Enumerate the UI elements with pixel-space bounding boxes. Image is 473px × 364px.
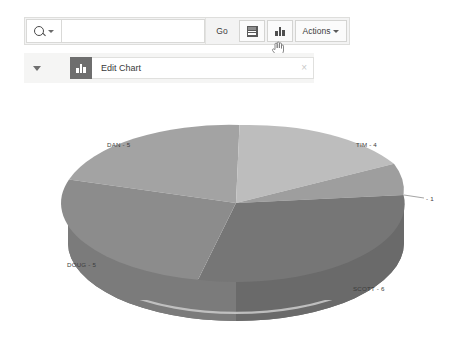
pie-top-slices [61, 125, 405, 282]
chevron-down-icon [333, 30, 339, 33]
pie-label-unnamed: - 1 [426, 195, 434, 202]
search-input[interactable] [62, 19, 205, 43]
pie-chart-container: DAN - 5 TIM - 4 - 1 SCOTT - 6 DOUG - 5 [0, 95, 473, 364]
triangle-down-icon [33, 66, 41, 71]
edit-chart-icon-button[interactable] [70, 57, 92, 79]
pie-chart: DAN - 5 TIM - 4 - 1 SCOTT - 6 DOUG - 5 [0, 95, 473, 364]
pie-label-doug: DOUG - 5 [67, 261, 96, 268]
region-collapse-toggle[interactable] [24, 66, 50, 71]
pie-leader-line [404, 195, 424, 198]
bar-chart-icon [75, 63, 87, 73]
report-toolbar: Go Actions [24, 17, 350, 45]
actions-button-label: Actions [303, 26, 331, 36]
table-view-icon [247, 26, 258, 37]
actions-menu-button[interactable]: Actions [295, 20, 347, 42]
search-type-selector[interactable] [26, 19, 62, 43]
bar-chart-view-icon [274, 26, 286, 36]
pie-label-tim: TIM - 4 [356, 141, 377, 148]
table-view-button[interactable] [239, 20, 265, 42]
pie-label-scott: SCOTT - 6 [353, 285, 385, 292]
go-button[interactable]: Go [205, 18, 238, 44]
chart-view-button[interactable] [267, 20, 293, 42]
go-button-label: Go [216, 26, 227, 36]
edit-chart-region: Edit Chart × [24, 53, 314, 83]
edit-chart-field[interactable]: Edit Chart × [92, 57, 314, 79]
edit-chart-title: Edit Chart [101, 63, 141, 73]
pie-label-dan: DAN - 5 [107, 141, 131, 148]
search-icon [34, 26, 44, 36]
close-icon[interactable]: × [301, 63, 307, 73]
chevron-down-icon [48, 30, 54, 33]
